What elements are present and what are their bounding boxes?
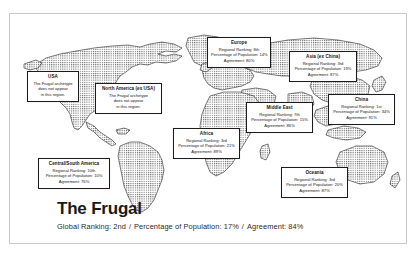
callout-asia[interactable]: Asia (ex China) Regional Ranking: 3rd Pe… <box>289 51 357 82</box>
callout-north-america[interactable]: North America (ex USA) The Frugal archet… <box>95 83 162 114</box>
infographic-page: USA The Frugal archetype does not appear… <box>0 0 416 257</box>
landmass-new-zealand <box>390 172 400 188</box>
callout-africa[interactable]: Africa Regional Ranking: 3rd Percentage … <box>173 128 240 159</box>
callout-line-3: Agreement: 86% <box>250 123 309 128</box>
callout-line-2: Percentage of Population: 34% <box>332 109 391 114</box>
callout-line-2: Percentage of Population: 19% <box>293 66 353 71</box>
callout-line-3: Agreement: 87% <box>285 188 344 193</box>
callout-line-3: Agreement: 87% <box>293 72 353 77</box>
callout-line-3: Agreement: 76% <box>42 179 106 184</box>
callout-line-2: Percentage of Population: 21% <box>177 143 236 148</box>
callout-oceania[interactable]: Oceania Regional Ranking: 3rd Percentage… <box>281 167 348 198</box>
callout-region-title: Oceania <box>285 170 344 176</box>
landmass-japan <box>372 76 386 92</box>
map-card-frame: USA The Frugal archetype does not appear… <box>9 13 407 244</box>
callout-line-3: in this region. <box>99 104 158 109</box>
callout-line-2: Percentage of Population: 20% <box>285 182 344 187</box>
page-title: The Frugal <box>57 200 397 218</box>
callout-line-2: Percentage of Population: 14% <box>211 52 267 57</box>
callout-line-2: Percentage of Population: 15% <box>250 117 309 122</box>
landmass-madagascar <box>260 144 270 160</box>
callout-usa[interactable]: USA The Frugal archetype does not appear… <box>27 71 79 102</box>
callout-middle-east[interactable]: Middle East Regional Ranking: 7th Percen… <box>246 102 313 133</box>
callout-region-title: Africa <box>177 131 236 137</box>
callout-europe[interactable]: Europe Regional Ranking: 8th Percentage … <box>207 37 271 68</box>
landmass-central-america <box>86 122 116 146</box>
callout-line-3: Agreement: 91% <box>332 115 391 120</box>
callout-region-title: North America (ex USA) <box>99 86 158 92</box>
global-agreement-text: Agreement: 84% <box>247 222 303 231</box>
callout-region-title: Middle East <box>250 105 309 111</box>
callout-region-title: China <box>332 97 391 103</box>
callout-region-title: Asia (ex China) <box>293 54 353 60</box>
landmass-indonesia <box>326 126 366 140</box>
callout-line-3: in this region. <box>31 92 75 97</box>
callout-line-3: Agreement: 89% <box>177 149 236 154</box>
landmass-caribbean <box>116 128 130 134</box>
global-population-text: Percentage of Population: 17% <box>134 222 239 231</box>
callout-line-2: Percentage of Population: 10% <box>42 173 106 178</box>
global-stats-caption: Global Ranking: 2nd/Percentage of Popula… <box>57 222 397 231</box>
callout-region-title: Central/South America <box>42 161 106 167</box>
title-block: The Frugal Global Ranking: 2nd/Percentag… <box>57 200 397 231</box>
callout-central-south-america[interactable]: Central/South America Regional Ranking: … <box>38 158 110 189</box>
callout-china[interactable]: China Regional Ranking: 1st Percentage o… <box>328 94 395 125</box>
callout-region-title: Europe <box>211 40 267 46</box>
caption-separator-1: / <box>126 222 134 231</box>
callout-line-3: Agreement: 80% <box>211 58 267 63</box>
caption-separator-2: / <box>239 222 247 231</box>
global-ranking-text: Global Ranking: 2nd <box>57 222 126 231</box>
callout-region-title: USA <box>31 74 75 80</box>
